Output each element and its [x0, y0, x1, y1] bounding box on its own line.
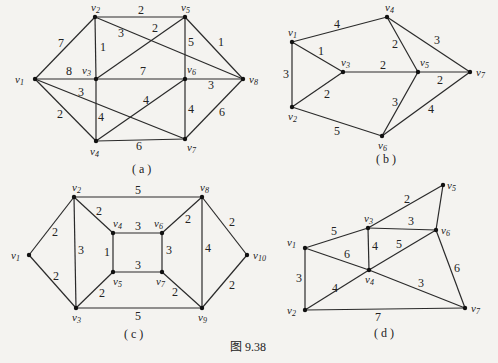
figure-canvas: 78232132745134466v1v2v3v4v5v6v7v8( a )41… — [0, 0, 498, 363]
node-v5 — [416, 70, 420, 74]
node-v5 — [183, 15, 187, 19]
node-label: v3 — [82, 64, 91, 78]
edge-weight: 3 — [408, 214, 414, 228]
edge-v6-v7 — [436, 230, 465, 308]
node-v8 — [241, 77, 245, 81]
edge-weight: 3 — [418, 276, 424, 290]
node-label: v7 — [476, 66, 486, 80]
edge-weight: 4 — [372, 239, 378, 253]
edge-weight: 4 — [428, 102, 434, 116]
node-label: v6 — [154, 217, 163, 231]
edge-weight: 6 — [219, 105, 225, 119]
node-v6 — [434, 228, 438, 232]
graph-caption: ( c ) — [124, 327, 143, 341]
edge-weight: 4 — [334, 17, 340, 31]
node-label: v4 — [365, 273, 374, 287]
node-v1 — [303, 246, 307, 250]
edge-v7-v9 — [162, 272, 202, 308]
node-v4 — [94, 139, 98, 143]
edge-weight: 2 — [404, 192, 410, 206]
edge-weight: 2 — [138, 3, 144, 17]
edge-v1-v4 — [305, 248, 369, 270]
node-label: v5 — [447, 179, 456, 193]
edge-v9-v10 — [202, 255, 247, 308]
node-label: v1 — [288, 26, 297, 40]
node-label: v6 — [187, 63, 196, 77]
node-v3 — [341, 70, 345, 74]
node-label: v6 — [441, 224, 450, 238]
edge-weight: 4 — [332, 281, 338, 295]
edge-v6-v4 — [96, 79, 185, 141]
node-label: v2 — [72, 181, 81, 195]
edge-weight: 2 — [229, 215, 235, 229]
node-v7 — [463, 306, 467, 310]
node-label: v7 — [471, 302, 481, 316]
edge-v1-v4 — [35, 79, 96, 141]
graph-b: 41325223234v1v2v3v4v5v6v7( b ) — [283, 1, 486, 166]
node-label: v2 — [287, 304, 296, 318]
edge-weight: 3 — [78, 85, 84, 99]
node-v3 — [366, 226, 370, 230]
node-label: v1 — [11, 249, 20, 263]
node-label: v6 — [378, 139, 387, 153]
edge-weight: 6 — [344, 247, 350, 261]
node-label: v2 — [288, 110, 297, 124]
edge-weight: 3 — [135, 258, 141, 272]
node-label: v3 — [72, 311, 81, 325]
node-label: v3 — [364, 212, 373, 226]
graph-d: 56347234536v1v2v3v4v5v6v7( d ) — [287, 179, 481, 340]
edge-weight: 2 — [152, 21, 158, 35]
node-v9 — [200, 306, 204, 310]
edge-weight: 3 — [283, 67, 289, 81]
node-v2 — [93, 15, 97, 19]
node-v1 — [27, 253, 31, 257]
edge-weight: 7 — [58, 36, 64, 50]
edge-weight: 2 — [52, 225, 58, 239]
graph-a: 78232132745134466v1v2v3v4v5v6v7v8( a ) — [15, 1, 258, 176]
edge-weight: 2 — [185, 212, 191, 226]
edge-weight: 4 — [205, 241, 211, 255]
node-v7 — [160, 270, 164, 274]
edge-v2-v3 — [292, 72, 343, 107]
edge-weight: 1 — [318, 44, 324, 58]
node-v1 — [290, 40, 294, 44]
edge-weight: 5 — [188, 35, 194, 49]
edge-weight: 5 — [396, 237, 402, 251]
node-v2 — [290, 105, 294, 109]
node-v4 — [367, 268, 371, 272]
edge-v2-v7 — [305, 308, 465, 310]
edge-weight: 3 — [166, 243, 172, 257]
node-label: v8 — [200, 181, 209, 195]
edge-weight: 5 — [135, 183, 141, 197]
edge-weight: 2 — [96, 204, 102, 218]
edge-weight: 2 — [172, 285, 178, 299]
graph-caption: ( d ) — [374, 326, 394, 340]
node-label: v9 — [198, 311, 207, 325]
edge-weight: 5 — [135, 309, 141, 323]
edge-weight: 3 — [78, 243, 84, 257]
node-v5 — [111, 270, 115, 274]
edge-v4-v6 — [369, 230, 436, 270]
node-v4 — [385, 15, 389, 19]
node-label: v5 — [113, 275, 122, 289]
node-label: v10 — [253, 249, 266, 263]
figure-caption: 图 9.38 — [230, 340, 266, 354]
edge-weight: 5 — [331, 224, 337, 238]
node-v1 — [33, 77, 37, 81]
edge-v2-v3 — [74, 197, 76, 308]
edge-v2-v3 — [95, 17, 96, 79]
node-v5 — [441, 183, 445, 187]
node-label: v4 — [113, 217, 122, 231]
graph-caption: ( a ) — [132, 162, 151, 176]
edge-v2-v4 — [74, 197, 113, 233]
edge-v4-v7 — [369, 270, 465, 308]
edge-weight: 8 — [66, 64, 72, 78]
node-label: v3 — [341, 56, 350, 70]
edge-weight: 1 — [104, 245, 110, 259]
edge-v3-v5 — [76, 272, 113, 308]
edge-weight: 3 — [296, 271, 302, 285]
edge-weight: 3 — [208, 78, 214, 92]
node-label: v4 — [385, 1, 394, 15]
edge-weight: 4 — [98, 110, 104, 124]
node-label: v1 — [15, 73, 24, 87]
